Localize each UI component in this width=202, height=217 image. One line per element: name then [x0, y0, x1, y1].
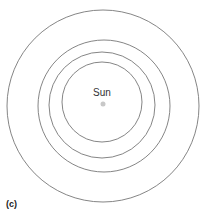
- sun-label: Sun: [93, 87, 111, 98]
- panel-label: (c): [6, 199, 17, 209]
- orbit-diagram: [0, 0, 202, 217]
- sun-dot: [101, 102, 106, 107]
